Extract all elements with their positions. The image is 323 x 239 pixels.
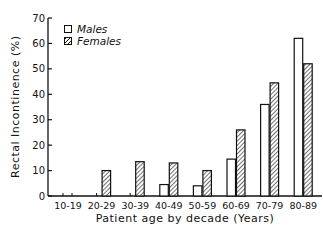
y-tick-label: 50 (32, 63, 45, 74)
bar-females (237, 130, 246, 196)
hatched-swatch-icon (64, 37, 72, 45)
y-tick-label: 60 (32, 38, 45, 49)
x-tick-label: 40-49 (155, 200, 183, 211)
x-tick-label: 80-89 (289, 200, 317, 211)
legend-label-males: Males (77, 23, 107, 35)
y-tick-label: 20 (32, 140, 45, 151)
legend-label-females: Females (77, 35, 121, 47)
y-tick-label: 10 (32, 165, 45, 176)
bar-females (136, 162, 145, 196)
x-tick-label: 20-29 (88, 200, 116, 211)
bar-females (102, 171, 111, 196)
y-tick-label: 0 (39, 191, 45, 202)
x-tick-label: 60-69 (222, 200, 250, 211)
x-tick-label: 30-39 (121, 200, 149, 211)
open-swatch-icon (64, 25, 72, 33)
legend-item-males: Males (64, 23, 121, 35)
bars (102, 38, 312, 196)
y-tick-label: 40 (32, 89, 45, 100)
bar-chart: 01020304050607010-1920-2930-3940-4950-59… (0, 0, 323, 239)
x-tick-label: 10-19 (54, 200, 82, 211)
bar-males (193, 186, 202, 196)
bar-females (203, 171, 212, 196)
y-axis-label: Rectal Incontinence (%) (9, 38, 25, 178)
bar-males (294, 38, 303, 196)
bar-males (160, 185, 169, 196)
legend: Males Females (64, 23, 121, 47)
bar-males (227, 159, 236, 196)
bar-females (270, 83, 279, 196)
x-axis-label: Patient age by decade (Years) (60, 212, 310, 225)
legend-item-females: Females (64, 35, 121, 47)
bar-males (261, 104, 270, 196)
x-tick-label: 70-79 (256, 200, 284, 211)
bar-females (304, 64, 313, 196)
y-tick-label: 70 (32, 13, 45, 24)
bar-females (169, 163, 178, 196)
x-tick-label: 50-59 (189, 200, 217, 211)
y-tick-label: 30 (32, 114, 45, 125)
